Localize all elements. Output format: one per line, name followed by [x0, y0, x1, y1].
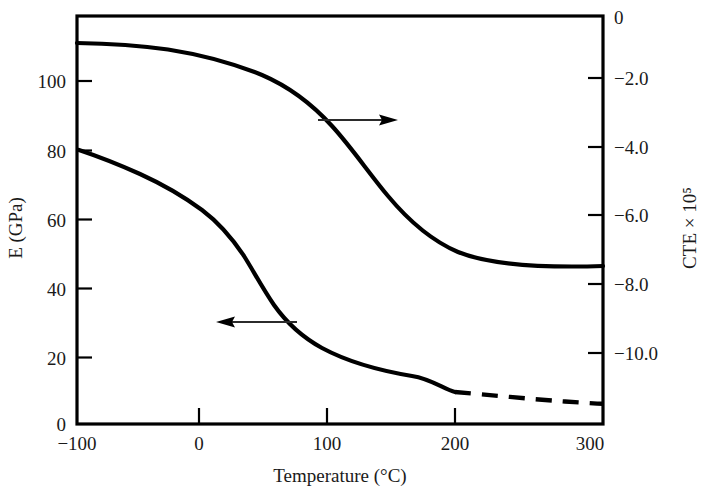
- y2-tick-label-neg10: −10.0: [614, 343, 658, 364]
- y-axis-title: E (GPa): [5, 197, 27, 259]
- modulus-curve-solid: [79, 150, 455, 392]
- chart-svg: 100 80 60 40 20 0 0 −2.0 −4.0 −6.0 −8.0 …: [0, 0, 718, 490]
- y2-tick-label-0: 0: [614, 7, 624, 28]
- y-tick-label-60: 60: [47, 210, 66, 231]
- y2-tick-label-neg4: −4.0: [614, 137, 648, 158]
- left-axis-ticks: [77, 81, 92, 358]
- y2-tick-label-neg6: −6.0: [614, 205, 648, 226]
- x-tick-label-0: 0: [194, 433, 204, 454]
- y2-tick-label-neg2: −2.0: [614, 68, 648, 89]
- x-axis-ticks: [199, 408, 455, 424]
- y-tick-label-80: 80: [47, 141, 66, 162]
- chart-figure: 100 80 60 40 20 0 0 −2.0 −4.0 −6.0 −8.0 …: [0, 0, 718, 490]
- y2-tick-label-neg8: −8.0: [614, 274, 648, 295]
- right-axis-ticks: [588, 78, 603, 353]
- x-tick-label-100: 100: [313, 433, 342, 454]
- x-tick-label-300: 300: [576, 433, 605, 454]
- modulus-curve-dashed: [455, 392, 603, 404]
- y-tick-label-40: 40: [47, 279, 66, 300]
- y-tick-label-0: 0: [57, 414, 67, 435]
- y-tick-label-100: 100: [38, 71, 67, 92]
- cte-curve: [77, 43, 603, 267]
- x-tick-label-neg100: −100: [57, 433, 96, 454]
- y2-axis-title: CTE × 10⁵: [679, 187, 700, 269]
- plot-frame: [77, 16, 603, 424]
- y-tick-label-20: 20: [47, 348, 66, 369]
- x-tick-label-200: 200: [441, 433, 470, 454]
- x-axis-title: Temperature (°C): [273, 465, 406, 487]
